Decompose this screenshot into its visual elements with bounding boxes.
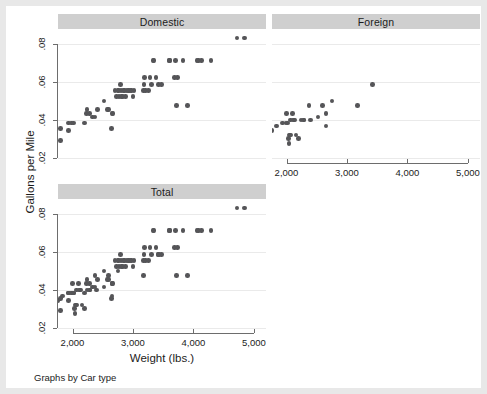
x-tick-label-total-2: 4,000: [168, 337, 218, 348]
data-point: [154, 245, 159, 250]
gridline-y-0: [58, 158, 266, 159]
y-tick-label-domestic-0: .02: [36, 150, 48, 166]
data-point: [142, 252, 147, 257]
y-tick-total-0: [53, 328, 57, 329]
y-tick-total-3: [53, 214, 57, 215]
data-point: [118, 252, 123, 257]
gridline-y-3: [272, 44, 480, 45]
data-point: [290, 111, 295, 116]
x-tick-total-3: [254, 329, 255, 333]
data-point: [287, 141, 292, 146]
data-point: [73, 311, 78, 316]
data-point: [66, 298, 71, 303]
data-point: [174, 273, 179, 278]
data-point: [173, 228, 178, 233]
data-point: [60, 294, 65, 299]
y-tick-label-domestic-2: .06: [36, 74, 48, 90]
data-point: [71, 121, 76, 126]
data-point: [175, 245, 180, 250]
data-point: [209, 228, 214, 233]
data-point: [316, 115, 321, 120]
data-point: [175, 75, 180, 80]
data-point: [324, 124, 329, 129]
data-point: [123, 94, 128, 99]
data-point: [58, 126, 63, 131]
data-point: [302, 118, 307, 123]
x-tick-label-total-0: 2,000: [48, 337, 98, 348]
data-point: [308, 118, 313, 123]
data-point: [146, 88, 151, 93]
x-tick-foreign-0: [287, 159, 288, 163]
data-point: [102, 285, 107, 290]
data-point: [152, 58, 157, 63]
graph-note: Graphs by Car type: [34, 372, 116, 383]
y-tick-total-1: [53, 290, 57, 291]
graph-canvas: Gallons per Mile Domestic Foreign Total …: [6, 6, 481, 388]
panel-total: Total: [58, 184, 266, 332]
data-point: [141, 273, 146, 278]
gridline-y-3: [58, 44, 266, 45]
data-point: [324, 111, 329, 116]
x-tick-label-total-3: 5,000: [229, 337, 279, 348]
panel-title-total: Total: [58, 184, 266, 199]
data-point: [111, 111, 116, 116]
data-point: [58, 138, 63, 143]
data-point: [111, 281, 116, 286]
plot-area-domestic: [58, 29, 266, 162]
y-tick-domestic-0: [53, 158, 57, 159]
x-tick-label-total-1: 3,000: [108, 337, 158, 348]
data-point: [148, 75, 153, 80]
y-axis-line-total: [57, 214, 58, 328]
data-point: [142, 245, 147, 250]
y-tick-label-total-2: .06: [36, 244, 48, 260]
y-axis-title: Gallons per Mile: [24, 112, 36, 232]
data-point: [149, 82, 154, 87]
data-point: [307, 103, 312, 108]
data-point: [370, 82, 375, 87]
data-point: [292, 118, 297, 123]
data-point: [109, 126, 114, 131]
y-axis-line-domestic: [57, 44, 58, 158]
data-point: [242, 206, 247, 211]
data-point: [118, 82, 123, 87]
data-point: [274, 124, 279, 129]
plot-area-foreign: [272, 29, 480, 162]
x-tick-label-foreign-1: 3,000: [322, 167, 372, 178]
data-point: [131, 264, 136, 269]
y-tick-domestic-2: [53, 82, 57, 83]
data-point: [199, 228, 204, 233]
data-point: [146, 258, 151, 263]
data-point: [159, 82, 164, 87]
data-point: [159, 252, 164, 257]
data-point: [70, 281, 75, 286]
data-point: [152, 228, 157, 233]
panel-foreign: Foreign: [272, 14, 480, 162]
data-point: [74, 303, 79, 308]
x-tick-total-1: [133, 329, 134, 333]
data-point: [82, 121, 87, 126]
data-point: [174, 103, 179, 108]
data-point: [82, 306, 87, 311]
data-point: [185, 273, 190, 278]
y-tick-label-domestic-1: .04: [36, 112, 48, 128]
x-axis-line-foreign: [287, 163, 468, 164]
y-tick-label-total-3: .08: [36, 206, 48, 222]
data-point: [132, 258, 137, 263]
x-tick-label-foreign-2: 4,000: [382, 167, 432, 178]
data-point: [93, 115, 98, 120]
x-tick-label-foreign-3: 5,000: [443, 167, 487, 178]
data-point: [209, 58, 214, 63]
data-point: [296, 136, 301, 141]
x-axis-line-total: [73, 333, 254, 334]
y-tick-domestic-1: [53, 120, 57, 121]
panel-domestic: Domestic: [58, 14, 266, 162]
data-point: [181, 228, 186, 233]
data-point: [66, 128, 71, 133]
data-point: [185, 103, 190, 108]
data-point: [102, 99, 107, 104]
data-point: [284, 111, 289, 116]
gridline-y-0: [272, 158, 480, 159]
x-tick-foreign-1: [347, 159, 348, 163]
data-point: [131, 94, 136, 99]
gridline-y-1: [58, 120, 266, 121]
